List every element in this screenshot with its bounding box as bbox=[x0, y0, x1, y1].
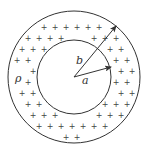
plus-charge-icon: + bbox=[30, 89, 37, 98]
plus-charge-icon: + bbox=[25, 78, 32, 87]
plus-charge-icon: + bbox=[58, 122, 65, 131]
plus-charge-icon: + bbox=[30, 111, 37, 120]
plus-charge-icon: + bbox=[41, 23, 48, 32]
plus-charge-icon: + bbox=[129, 89, 136, 98]
plus-charge-icon: + bbox=[36, 34, 43, 43]
plus-charge-icon: + bbox=[107, 45, 114, 54]
plus-charge-icon: + bbox=[63, 133, 70, 142]
plus-charge-icon: + bbox=[36, 100, 43, 109]
plus-charge-icon: + bbox=[63, 23, 70, 32]
plus-charge-icon: + bbox=[74, 23, 81, 32]
plus-charge-icon: + bbox=[118, 89, 125, 98]
plus-charge-icon: + bbox=[30, 45, 37, 54]
plus-charge-icon: + bbox=[124, 78, 131, 87]
charged-shell-diagram: ++++++++++++++++++++++++++++++++++++++++… bbox=[0, 0, 146, 156]
plus-charge-icon: + bbox=[124, 56, 131, 65]
plus-charge-icon: + bbox=[19, 89, 26, 98]
plus-charge-icon: + bbox=[25, 100, 32, 109]
plus-charge-icon: + bbox=[41, 111, 48, 120]
plus-charge-icon: + bbox=[96, 111, 103, 120]
plus-charge-icon: + bbox=[102, 100, 109, 109]
plus-charge-icon: + bbox=[118, 67, 125, 76]
plus-charge-icon: + bbox=[36, 122, 43, 131]
plus-charge-icon: + bbox=[113, 34, 120, 43]
plus-charge-icon: + bbox=[69, 122, 76, 131]
plus-charge-icon: + bbox=[91, 122, 98, 131]
plus-charge-icon: + bbox=[47, 34, 54, 43]
plus-charge-icon: + bbox=[124, 100, 131, 109]
plus-charge-icon: + bbox=[47, 122, 54, 131]
outer-radius-label: b bbox=[76, 54, 83, 67]
plus-charge-icon: + bbox=[52, 23, 59, 32]
plus-charge-icon: + bbox=[14, 56, 21, 65]
charge-density-label: ρ bbox=[14, 72, 22, 85]
plus-charge-icon: + bbox=[118, 45, 125, 54]
plus-charge-icon: + bbox=[30, 67, 37, 76]
plus-charge-icon: + bbox=[52, 111, 59, 120]
plus-charge-icon: + bbox=[25, 34, 32, 43]
plus-charge-icon: + bbox=[19, 45, 26, 54]
plus-charge-icon: + bbox=[85, 23, 92, 32]
plus-charge-icon: + bbox=[129, 67, 136, 76]
plus-charge-icon: + bbox=[113, 78, 120, 87]
plus-charge-icon: + bbox=[91, 34, 98, 43]
plus-charge-icon: + bbox=[96, 23, 103, 32]
plus-charge-icon: + bbox=[107, 111, 114, 120]
plus-charge-icon: + bbox=[118, 111, 125, 120]
inner-radius-label: a bbox=[82, 74, 89, 87]
plus-charge-icon: + bbox=[102, 122, 109, 131]
plus-charge-icon: + bbox=[25, 56, 32, 65]
plus-charge-icon: + bbox=[113, 56, 120, 65]
plus-charge-icon: + bbox=[113, 100, 120, 109]
plus-charge-icon: + bbox=[74, 133, 81, 142]
plus-charge-icon: + bbox=[80, 122, 87, 131]
